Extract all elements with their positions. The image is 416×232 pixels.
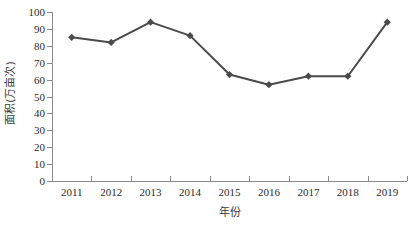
y-axis-tick-label: 80 [34, 40, 45, 51]
data-point-marker [68, 34, 75, 41]
y-axis-title-label: 面积(万亩次) [1, 61, 17, 125]
y-axis-tick-mark [47, 130, 52, 131]
x-axis-tick-label: 2015 [219, 186, 241, 198]
x-axis-tick-mark [170, 176, 171, 181]
y-axis-tick-label: 30 [34, 125, 45, 136]
x-axis-tick-mark [289, 176, 290, 181]
x-axis-tick-label: 2017 [297, 186, 319, 198]
x-axis-line [52, 181, 407, 182]
y-axis-tick-label: 90 [34, 23, 45, 34]
y-axis-tick-mark [47, 80, 52, 81]
data-point-marker [147, 19, 154, 26]
x-axis-title: 年份 [52, 203, 407, 219]
x-axis-tick-mark [328, 176, 329, 181]
x-axis-tick-label: 2011 [61, 186, 83, 198]
x-axis-tick-mark [368, 176, 369, 181]
y-axis-tick-label: 20 [34, 142, 45, 153]
x-axis-tick-mark [407, 176, 408, 181]
y-axis-title: 面积(万亩次) [0, 0, 18, 186]
y-axis-tick-label: 100 [29, 7, 46, 18]
y-axis-line [52, 12, 53, 182]
y-axis-tick-label: 10 [34, 159, 45, 170]
data-point-marker [384, 19, 391, 26]
x-axis-tick-label: 2012 [100, 186, 122, 198]
data-point-marker [265, 81, 272, 88]
x-axis-tick-label: 2014 [179, 186, 201, 198]
data-point-marker [305, 73, 312, 80]
series-line [72, 22, 388, 85]
y-axis-tick-mark [47, 46, 52, 47]
line-chart: 面积(万亩次) 0102030405060708090100 201120122… [0, 0, 416, 232]
y-axis-tick-labels: 0102030405060708090100 [18, 12, 48, 182]
data-point-marker [186, 32, 193, 39]
y-axis-tick-mark [47, 113, 52, 114]
y-axis-tick-mark [47, 12, 52, 13]
y-axis-tick-mark [47, 164, 52, 165]
y-axis-tick-mark [47, 29, 52, 30]
y-axis-tick-label: 70 [34, 57, 45, 68]
y-axis-tick-mark [47, 97, 52, 98]
x-axis-tick-label: 2016 [258, 186, 280, 198]
x-axis-tick-mark [249, 176, 250, 181]
x-axis-tick-mark [91, 176, 92, 181]
x-axis-tick-mark [52, 176, 53, 181]
y-axis-tick-label: 60 [34, 74, 45, 85]
x-axis-tick-label: 2019 [376, 186, 398, 198]
x-axis-tick-mark [210, 176, 211, 181]
data-point-marker [226, 71, 233, 78]
y-axis-tick-label: 40 [34, 108, 45, 119]
y-axis-tick-mark [47, 181, 52, 182]
x-axis-tick-label: 2018 [337, 186, 359, 198]
x-axis-tick-label: 2013 [140, 186, 162, 198]
y-axis-tick-mark [47, 63, 52, 64]
y-axis-tick-label: 0 [40, 176, 46, 187]
data-point-marker [344, 73, 351, 80]
x-axis-tick-mark [131, 176, 132, 181]
y-axis-tick-label: 50 [34, 91, 45, 102]
y-axis-tick-mark [47, 147, 52, 148]
data-point-marker [108, 39, 115, 46]
